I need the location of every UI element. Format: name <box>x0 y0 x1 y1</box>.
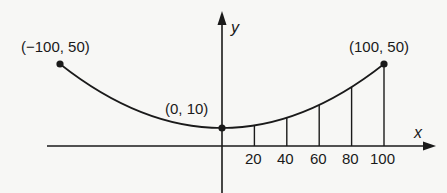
tick-100: 100 <box>370 150 395 167</box>
vertex-label: (0, 10) <box>165 100 208 117</box>
left-point-label: (−100, 50) <box>21 38 90 55</box>
y-axis-label: y <box>230 19 240 36</box>
tick-20: 20 <box>245 150 262 167</box>
point-right <box>380 60 387 67</box>
x-axis-arrow-icon <box>423 142 436 151</box>
tick-60: 60 <box>310 150 327 167</box>
y-axis-arrow-icon <box>218 11 227 25</box>
parabola-chart: (−100, 50) (0, 10) (100, 50) y x 20 40 6… <box>0 0 447 193</box>
point-left <box>56 60 63 67</box>
tick-40: 40 <box>277 150 294 167</box>
right-point-label: (100, 50) <box>349 38 409 55</box>
x-axis-label: x <box>413 124 423 141</box>
point-vertex <box>218 124 225 131</box>
tick-80: 80 <box>342 150 359 167</box>
